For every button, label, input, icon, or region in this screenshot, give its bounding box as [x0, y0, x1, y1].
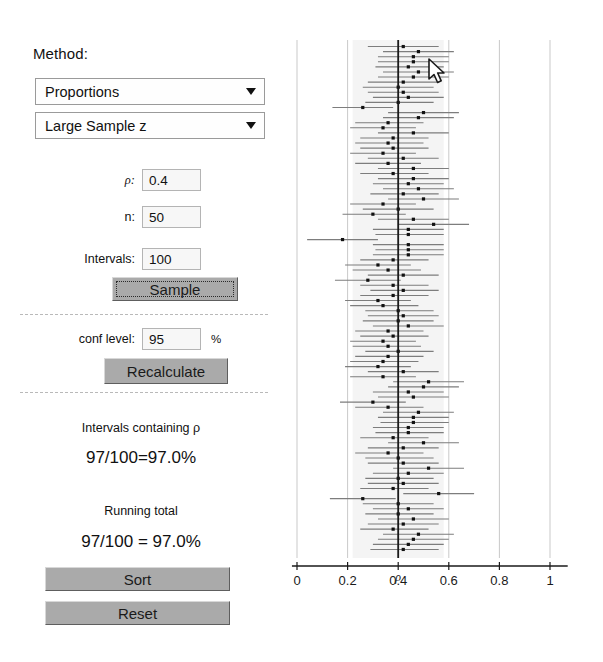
chevron-down-icon: [238, 122, 264, 129]
intervals-field-label: Intervals:: [0, 252, 142, 266]
recalculate-button[interactable]: Recalculate: [104, 358, 228, 384]
procedure-dropdown-value: Large Sample z: [36, 118, 238, 134]
intervals-field-row: Intervals: 100: [0, 247, 282, 271]
n-field-row: n: 50: [0, 205, 282, 229]
x-axis: [292, 562, 568, 570]
intervals-containing-value: 97/100=97.0%: [0, 448, 282, 468]
svg-text:0: 0: [293, 573, 300, 588]
plot-svg: 00.20.40.60.81 ρ: [282, 0, 603, 662]
reset-button-label: Reset: [118, 605, 157, 622]
chevron-down-icon: [238, 88, 264, 95]
svg-text:1: 1: [546, 573, 553, 588]
sort-button[interactable]: Sort: [45, 567, 230, 591]
reset-button[interactable]: Reset: [45, 601, 230, 625]
procedure-dropdown[interactable]: Large Sample z: [35, 112, 265, 139]
n-field-label: n:: [0, 210, 142, 224]
n-input[interactable]: 50: [142, 206, 201, 228]
sort-button-label: Sort: [124, 571, 152, 588]
intervals-input[interactable]: 100: [142, 248, 201, 270]
svg-text:0.8: 0.8: [490, 573, 508, 588]
svg-text:ρ: ρ: [394, 570, 401, 584]
recalculate-button-label: Recalculate: [127, 363, 205, 380]
rho-axis-marker: ρ: [394, 570, 401, 584]
separator-bottom: [20, 392, 268, 393]
method-dropdown[interactable]: Proportions: [35, 78, 265, 105]
intervals-containing-heading: Intervals containing ρ: [0, 421, 282, 435]
svg-text:0.6: 0.6: [440, 573, 458, 588]
p-field-label: ρ:: [0, 173, 142, 188]
method-dropdown-value: Proportions: [36, 84, 238, 100]
confidence-interval-plot: 00.20.40.60.81 ρ: [282, 0, 603, 662]
conf-level-label: conf level:: [0, 332, 142, 346]
conf-level-field-row: conf level: 95 %: [0, 327, 282, 351]
running-total-heading: Running total: [0, 504, 282, 518]
running-total-value: 97/100 = 97.0%: [0, 532, 282, 552]
p-input[interactable]: 0.4: [142, 169, 201, 191]
conf-level-input[interactable]: 95: [142, 328, 201, 350]
method-label: Method:: [33, 45, 88, 62]
control-panel: Method: Proportions Large Sample z ρ: 0.…: [0, 0, 282, 662]
x-axis-tick-labels: 00.20.40.60.81: [293, 573, 553, 588]
sample-button[interactable]: Sample: [112, 277, 238, 301]
p-field-row: ρ: 0.4: [0, 168, 282, 192]
svg-text:0.2: 0.2: [339, 573, 357, 588]
separator-top: [20, 314, 268, 315]
percent-suffix: %: [201, 333, 221, 345]
focus-ring: [116, 281, 234, 297]
